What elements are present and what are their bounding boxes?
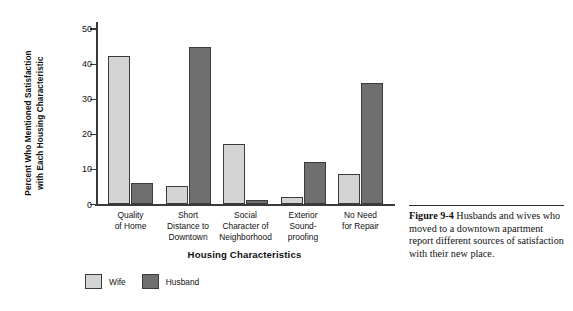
bar-wife-0 xyxy=(108,56,130,204)
bar-husband-1 xyxy=(189,47,211,204)
plot-area: 50 40 30 20 10 0 Qualityof HomeShortDist… xyxy=(96,22,393,205)
bar-wife-1 xyxy=(166,186,188,204)
x-axis-label-line: proofing xyxy=(265,232,341,243)
legend-item-husband: Husband xyxy=(142,274,200,289)
y-axis-line xyxy=(96,22,98,205)
bar-wife-2 xyxy=(223,144,245,204)
y-axis-title: Percent Who Mentioned Satisfaction with … xyxy=(23,23,53,223)
y-tick-label-50: 50 xyxy=(82,24,92,34)
bar-husband-3 xyxy=(304,162,326,204)
x-axis-title: Housing Characteristics xyxy=(96,249,393,260)
y-axis-title-line-2: with Each Housing Characteristic xyxy=(35,23,47,223)
y-tick-label-10: 10 xyxy=(82,164,92,174)
y-tick-label-30: 30 xyxy=(82,94,92,104)
x-axis-label-line: for Repair xyxy=(323,221,399,232)
bar-wife-3 xyxy=(281,197,303,204)
y-axis-title-line-1: Percent Who Mentioned Satisfaction xyxy=(23,23,35,223)
legend-label-husband: Husband xyxy=(166,277,200,287)
bar-wife-4 xyxy=(338,174,360,204)
figure-caption: Figure 9-4 Husbands and wives who moved … xyxy=(409,210,569,260)
x-axis-label-4: No Needfor Repair xyxy=(323,210,399,232)
bar-husband-2 xyxy=(246,200,268,204)
figure-caption-number: Figure 9-4 xyxy=(409,210,454,221)
y-tick-label-0: 0 xyxy=(87,200,92,210)
x-axis-line xyxy=(95,204,395,206)
bar-husband-4 xyxy=(361,83,383,204)
x-axis-label-line: No Need xyxy=(323,210,399,221)
y-tick-label-20: 20 xyxy=(82,129,92,139)
y-tick-label-40: 40 xyxy=(82,59,92,69)
legend-swatch-husband xyxy=(142,274,159,289)
legend-swatch-wife xyxy=(85,274,102,289)
chart-legend: Wife Husband xyxy=(85,274,199,289)
caption-divider xyxy=(409,205,564,206)
legend-item-wife: Wife xyxy=(85,274,126,289)
legend-label-wife: Wife xyxy=(109,277,126,287)
bar-husband-0 xyxy=(131,183,153,204)
figure-9-4: Percent Who Mentioned Satisfaction with … xyxy=(0,0,573,311)
